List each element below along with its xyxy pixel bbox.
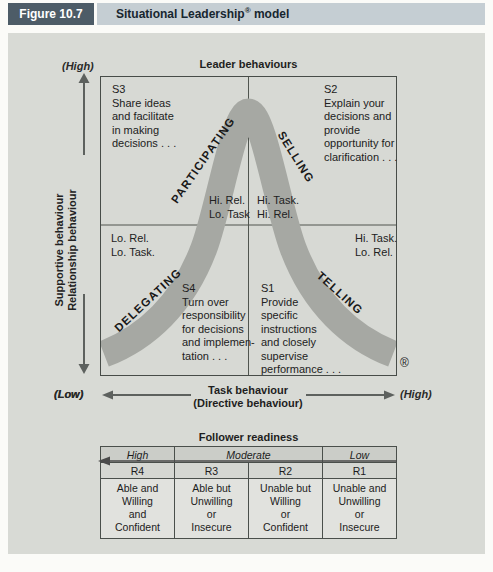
quadrant-s1-text: S1 Provide specific instructions and clo…: [261, 282, 341, 377]
quadrant-s3-text: S3 Share ideas and facilitate in making …: [112, 83, 176, 151]
quadrant-s2-text: S2 Explain your decisions and provide op…: [324, 83, 397, 164]
registered-mark: ®: [400, 356, 409, 370]
down-arrow-icon: [77, 294, 91, 374]
right-arrow-icon: [304, 389, 396, 401]
combo-hi-task-hi-rel: Hi. Task. Hi. Rel.: [257, 193, 299, 221]
quadrant-s4-text: S4 Turn over responsibility for decision…: [182, 282, 255, 363]
up-arrow-icon: [77, 73, 91, 155]
desc-r2: Unable but Willing or Confident: [249, 479, 323, 539]
y-axis-title: Supportive behaviour Relationship behavi…: [53, 150, 79, 350]
x-axis-low-label: (Low): [54, 388, 83, 400]
desc-r3: Able but Unwilling or Insecure: [175, 479, 249, 539]
combo-hi-rel-lo-task: Hi. Rel. Lo. Task: [209, 193, 250, 221]
figure-title-bar: Situational Leadership® model: [97, 3, 485, 25]
figure-title: Situational Leadership® model: [116, 7, 289, 21]
desc-r1: Unable and Unwilling or Insecure: [323, 479, 397, 539]
combo-hi-task-lo-rel: Hi. Task. Lo. Rel.: [355, 231, 397, 259]
x-axis-high-label: (High): [400, 388, 432, 400]
y-axis-high-label: (High): [62, 60, 94, 72]
leader-behaviours-label: Leader behaviours: [100, 58, 397, 70]
readiness-left-arrow-icon: [95, 454, 399, 468]
combo-lo-rel-lo-task: Lo. Rel. Lo. Task.: [111, 231, 155, 259]
figure-number-badge: Figure 10.7: [8, 3, 94, 25]
follower-readiness-title: Follower readiness: [100, 431, 397, 443]
desc-r4: Able and Willing and Confident: [101, 479, 175, 539]
figure-page: Figure 10.7 Situational Leadership® mode…: [0, 0, 493, 572]
readiness-description-row: Able and Willing and Confident Able but …: [101, 479, 397, 539]
figure-number-label: Figure 10.7: [19, 7, 82, 21]
